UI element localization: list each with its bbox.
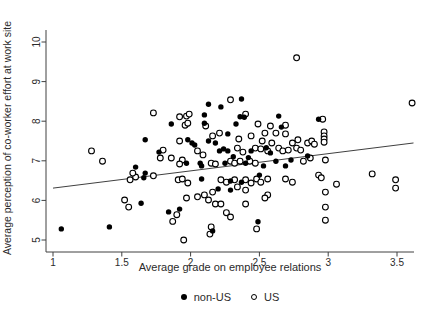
y-tick-label: 7 <box>31 158 42 164</box>
data-point-non-us <box>228 187 233 192</box>
data-point-non-us <box>243 161 248 166</box>
data-point-non-us <box>316 117 321 122</box>
data-point-us <box>206 197 212 203</box>
x-axis-title: Average grade on employee relations <box>139 261 322 273</box>
data-point-non-us <box>257 172 262 177</box>
legend-label-non-us: non-US <box>194 291 231 303</box>
data-point-non-us <box>107 224 112 229</box>
data-point-us <box>268 123 274 129</box>
data-point-non-us <box>239 180 244 185</box>
data-point-us <box>170 219 176 225</box>
data-point-us <box>235 184 241 190</box>
data-point-us <box>237 158 243 164</box>
data-point-us <box>283 131 289 137</box>
data-point-us <box>228 97 234 103</box>
data-point-us <box>210 189 216 195</box>
data-point-non-us <box>239 96 244 101</box>
data-point-non-us <box>268 150 273 155</box>
data-point-non-us <box>156 149 161 154</box>
data-point-us <box>323 217 329 223</box>
data-point-non-us <box>233 121 238 126</box>
data-point-non-us <box>218 104 223 109</box>
data-point-us <box>258 179 264 185</box>
data-point-non-us <box>261 163 266 168</box>
y-tick-label: 10 <box>31 36 42 48</box>
data-point-non-us <box>138 201 143 206</box>
scatter-chart: 11.522.533.55678910 Average grade on emp… <box>0 0 435 316</box>
data-point-us <box>290 179 296 185</box>
data-point-us <box>177 161 183 167</box>
data-point-us <box>185 120 191 126</box>
data-point-us <box>312 141 318 147</box>
data-point-non-us <box>225 148 230 153</box>
data-point-non-us <box>143 137 148 142</box>
data-point-us <box>393 177 399 183</box>
data-point-us <box>213 201 219 207</box>
y-tick-label: 5 <box>31 237 42 243</box>
data-point-us <box>202 192 208 198</box>
data-point-non-us <box>279 124 284 129</box>
data-point-us <box>89 148 95 154</box>
data-point-us <box>248 180 254 186</box>
data-point-non-us <box>248 148 253 153</box>
data-point-non-us <box>202 112 207 117</box>
data-point-us <box>243 201 249 207</box>
data-point-us <box>195 194 201 200</box>
data-point-us <box>323 189 329 195</box>
data-point-us <box>100 158 106 164</box>
data-point-us <box>294 55 300 61</box>
data-point-us <box>130 170 136 176</box>
data-point-us <box>184 195 190 201</box>
data-point-non-us <box>231 154 236 159</box>
y-tick-label: 6 <box>31 197 42 203</box>
data-point-non-us <box>288 157 293 162</box>
data-point-non-us <box>228 178 233 183</box>
data-point-us <box>298 147 304 153</box>
x-tick-label: 1.5 <box>115 257 129 268</box>
data-point-non-us <box>199 163 204 168</box>
plot-area: 11.522.533.55678910 <box>31 30 415 268</box>
data-point-us <box>323 157 329 163</box>
data-point-us <box>248 133 254 139</box>
x-tick-label: 1 <box>50 257 56 268</box>
y-tick-label: 8 <box>31 118 42 124</box>
data-point-us <box>301 158 307 164</box>
data-point-non-us <box>273 159 278 164</box>
data-point-non-us <box>133 164 138 169</box>
data-point-us <box>393 185 399 191</box>
data-point-us <box>218 201 224 207</box>
x-tick-label: 3.5 <box>390 257 404 268</box>
data-point-non-us <box>276 113 281 118</box>
data-point-us <box>174 212 180 218</box>
data-point-us <box>168 155 174 161</box>
data-point-non-us <box>206 138 211 143</box>
data-point-non-us <box>222 161 227 166</box>
data-point-us <box>218 177 224 183</box>
data-point-us <box>151 110 157 116</box>
data-point-us <box>262 130 268 136</box>
data-point-us <box>228 214 234 220</box>
data-point-us <box>186 111 192 117</box>
data-point-us <box>369 171 375 177</box>
data-point-non-us <box>242 115 247 120</box>
data-point-us <box>265 176 271 182</box>
data-point-us <box>127 177 133 183</box>
data-point-non-us <box>305 153 310 158</box>
data-point-us <box>323 204 329 210</box>
data-point-us <box>334 181 340 187</box>
data-point-us <box>157 155 163 161</box>
data-point-non-us <box>206 102 211 107</box>
data-point-us <box>236 136 242 142</box>
scatter-plot-figure: 11.522.533.55678910 Average grade on emp… <box>0 0 435 316</box>
x-tick-label: 3 <box>325 257 331 268</box>
data-point-non-us <box>169 121 174 126</box>
data-point-us <box>259 138 265 144</box>
y-tick-label: 9 <box>31 78 42 84</box>
data-point-us <box>122 197 128 203</box>
data-point-non-us <box>141 175 146 180</box>
data-point-non-us <box>246 155 251 160</box>
data-point-us <box>126 204 132 210</box>
data-point-non-us <box>192 142 197 147</box>
data-point-non-us <box>199 176 204 181</box>
data-point-us <box>321 139 327 145</box>
